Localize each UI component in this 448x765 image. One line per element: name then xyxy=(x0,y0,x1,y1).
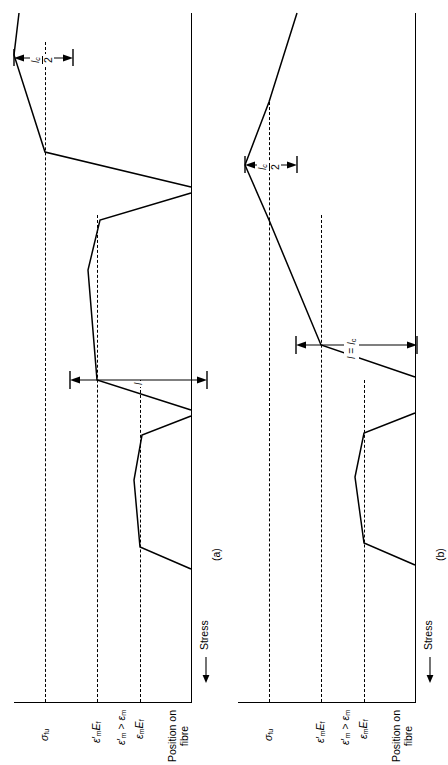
dimension-label-lc-over-2: lc 2 xyxy=(30,54,54,66)
figure-canvas: σfu ε′mEf εmEf ε′m > εm Position on fibr… xyxy=(0,0,448,765)
lc-numerator: lc xyxy=(29,57,41,63)
panel-b: σfu ε′mEf εmEf ε′m > εm Position on fibr… xyxy=(224,0,448,765)
panel-a-dimension-lc-over-2 xyxy=(0,0,224,765)
panel-b-dimension-lc-over-2 xyxy=(224,0,448,765)
lc-denominator: 2 xyxy=(43,56,54,64)
panel-a: σfu ε′mEf εmEf ε′m > εm Position on fibr… xyxy=(0,0,224,765)
dimension-label-lc-over-2-b: lc 2 xyxy=(257,161,281,173)
